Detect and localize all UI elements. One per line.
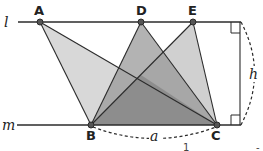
- point-e: [190, 19, 196, 25]
- point-b-label: B: [86, 128, 96, 143]
- bottom-fragment-dash: -: [256, 142, 260, 151]
- point-c-label: C: [211, 128, 221, 143]
- line-l-label: l: [4, 14, 8, 30]
- point-e-label: E: [188, 3, 197, 18]
- bottom-fragment-digit: 1: [183, 142, 189, 151]
- height-label: h: [249, 66, 258, 82]
- right-angle-mark-bottom: [231, 115, 240, 125]
- line-m-label: m: [2, 117, 15, 133]
- point-a-label: A: [34, 3, 44, 18]
- right-angle-mark-top: [231, 22, 240, 33]
- base-length-label: a: [150, 128, 158, 144]
- parallel-lines-triangles-diagram: l m A D E B C a h 1 -: [0, 0, 263, 151]
- point-d: [138, 19, 144, 25]
- point-d-label: D: [136, 3, 147, 18]
- point-a: [37, 19, 43, 25]
